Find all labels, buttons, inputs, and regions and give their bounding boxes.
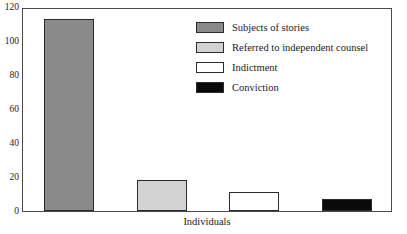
y-axis-tick-label: 120 <box>5 3 22 13</box>
bar-4 <box>322 199 372 211</box>
legend-item-3: Indictment <box>196 57 386 77</box>
legend: Subjects of storiesReferred to independe… <box>196 17 386 97</box>
legend-item-1: Subjects of stories <box>196 17 386 37</box>
legend-item-4: Conviction <box>196 77 386 97</box>
y-axis: 120100806040200 <box>0 8 22 212</box>
legend-item-label: Indictment <box>232 62 278 73</box>
legend-swatch-icon <box>196 22 224 33</box>
y-axis-tick-label: 100 <box>5 37 22 47</box>
legend-swatch-icon <box>196 82 224 93</box>
y-axis-tick-label: 60 <box>10 105 23 115</box>
legend-swatch-icon <box>196 62 224 73</box>
legend-item-label: Referred to independent counsel <box>232 42 368 53</box>
x-axis-label: Individuals <box>22 215 392 228</box>
bar-2 <box>137 180 187 211</box>
bar-3 <box>229 192 279 211</box>
legend-swatch-icon <box>196 42 224 53</box>
legend-item-2: Referred to independent counsel <box>196 37 386 57</box>
y-axis-tick-label: 80 <box>10 71 23 81</box>
bar-chart-figure: 120100806040200 Subjects of storiesRefer… <box>0 0 407 234</box>
y-axis-tick-label: 40 <box>10 139 23 149</box>
y-axis-tick-label: 20 <box>10 173 23 183</box>
bar-1 <box>44 19 94 211</box>
legend-item-label: Conviction <box>232 82 279 93</box>
y-axis-tick-label: 0 <box>14 207 22 217</box>
legend-item-label: Subjects of stories <box>232 22 309 33</box>
